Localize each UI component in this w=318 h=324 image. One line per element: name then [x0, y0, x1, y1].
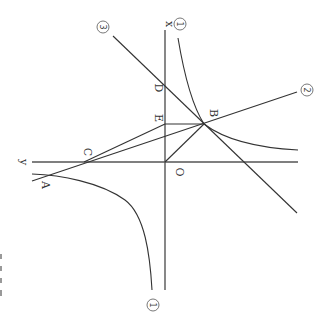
origin-label: O [173, 167, 186, 176]
label-line-3: 3 [97, 21, 109, 33]
point-A-label: A [39, 180, 52, 190]
point-D-label: D [152, 84, 165, 93]
svg-text:2: 2 [302, 87, 311, 92]
segment-CE [84, 124, 165, 162]
hyperbola-branch-right [178, 38, 298, 150]
line-3 [113, 36, 297, 213]
svg-text:3: 3 [98, 24, 107, 29]
point-B-label: B [207, 109, 220, 117]
label-line-2: 2 [301, 84, 313, 96]
label-hyperbola-bottom: 1 [147, 299, 159, 311]
clipped-edge-text [0, 254, 2, 296]
coordinate-diagram: y x O A B C D E 1 1 2 3 [0, 0, 318, 324]
svg-text:1: 1 [175, 21, 184, 26]
svg-text:1: 1 [148, 302, 157, 307]
y-axis-label: y [17, 158, 30, 166]
hyperbola-branch-left [32, 174, 152, 290]
label-hyperbola-top: 1 [174, 18, 186, 30]
point-C-label: C [81, 148, 94, 156]
point-E-label: E [152, 114, 165, 122]
